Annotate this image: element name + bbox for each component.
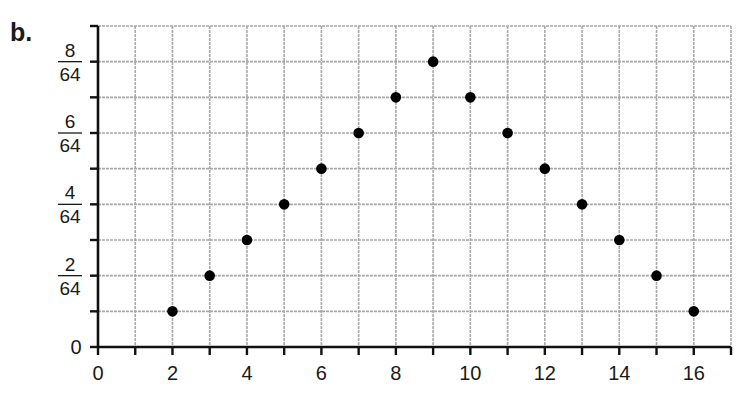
x-tick-label: 14 xyxy=(608,362,630,384)
y-tick-label: 0 xyxy=(70,336,81,358)
y-tick-denominator: 64 xyxy=(59,206,81,227)
x-tick-label: 10 xyxy=(459,362,481,384)
x-tick-labels: 0246810121416 xyxy=(92,362,704,384)
data-point xyxy=(242,235,253,246)
data-point xyxy=(204,270,215,281)
y-tick-numerator: 2 xyxy=(65,254,76,275)
data-point xyxy=(391,92,402,103)
data-point xyxy=(316,163,327,174)
x-tick-label: 8 xyxy=(390,362,401,384)
grid-lines xyxy=(98,26,731,347)
data-point xyxy=(688,306,699,317)
y-tick-denominator: 64 xyxy=(59,278,81,299)
x-tick-label: 12 xyxy=(534,362,556,384)
data-point xyxy=(353,128,364,139)
y-tick-denominator: 64 xyxy=(59,135,81,156)
data-point xyxy=(577,199,588,210)
data-point xyxy=(540,163,551,174)
data-point xyxy=(279,199,290,210)
y-tick-numerator: 8 xyxy=(65,40,76,61)
y-tick-denominator: 64 xyxy=(59,64,81,85)
x-tick-label: 16 xyxy=(683,362,705,384)
y-tick-numerator: 4 xyxy=(65,182,76,203)
axes xyxy=(90,26,731,355)
data-point xyxy=(614,235,625,246)
data-point xyxy=(651,270,662,281)
x-tick-label: 4 xyxy=(241,362,252,384)
data-point xyxy=(502,128,513,139)
data-point xyxy=(428,56,439,67)
data-point xyxy=(465,92,476,103)
x-tick-label: 2 xyxy=(167,362,178,384)
y-tick-numerator: 6 xyxy=(65,111,76,132)
x-tick-label: 6 xyxy=(316,362,327,384)
x-tick-label: 0 xyxy=(92,362,103,384)
scatter-chart: 0246810121416 0264464664864 xyxy=(0,0,754,398)
data-point xyxy=(167,306,178,317)
y-tick-labels: 0264464664864 xyxy=(58,40,82,358)
